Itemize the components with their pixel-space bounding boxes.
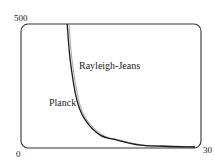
rayleigh-jeans-label: Rayleigh-Jeans (79, 60, 140, 71)
origin-label: 0 (16, 149, 21, 159)
y-max-label: 500 (14, 13, 28, 23)
planck-label: Planck (49, 97, 76, 108)
planck-curve (67, 24, 195, 147)
x-max-label: 30 (203, 145, 213, 155)
rayleigh-jeans-curve (69, 24, 195, 147)
radiation-chart: 500 0 30 Rayleigh-Jeans Planck (0, 0, 215, 163)
plot-frame (21, 24, 201, 148)
